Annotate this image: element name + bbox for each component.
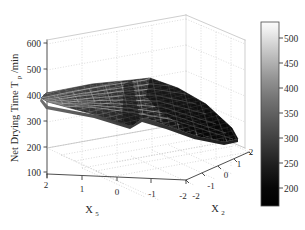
z-tick-label-300: 300 (27, 117, 42, 127)
colorbar[interactable]: 500 450 400 350 300 250 200 (261, 22, 299, 206)
colorbar-tick-marks (279, 38, 283, 188)
colorbar-tick-label-350: 350 (284, 109, 299, 119)
x2-tick-label-1: 1 (237, 159, 242, 169)
x5-tick-label-neg1: -1 (148, 189, 156, 199)
x5-axis-title-symbol: X (85, 204, 93, 215)
colorbar-tick-label-450: 450 (284, 59, 299, 69)
z-axis-title-subscript: p (15, 75, 23, 79)
z-tick-label-500: 500 (27, 65, 42, 75)
z-axis: 600 500 400 300 200 100 Net Drying Time … (9, 39, 47, 178)
x5-tick-label-neg2: -2 (179, 191, 187, 201)
colorbar-tick-label-300: 300 (284, 134, 299, 144)
x2-axis-title-subscript: 2 (221, 209, 225, 217)
svg-text:Net Drying Time: Net Drying Time T p /min (9, 53, 23, 162)
z-axis-title-symbol: T (9, 81, 20, 88)
x2-tick-label-2: 2 (249, 147, 254, 157)
x5-tick-label-1: 1 (80, 184, 85, 194)
z-tick-label-400: 400 (27, 91, 42, 101)
z-axis-title: Net Drying Time T p /min (9, 53, 23, 162)
x2-axis-title: X 2 (211, 203, 225, 217)
z-tick-label-100: 100 (27, 168, 42, 178)
figure-3d-surface-plot: 600 500 400 300 200 100 Net Drying Time … (0, 0, 305, 230)
x5-axis: 2 1 0 -1 -2 X 5 (44, 174, 187, 218)
colorbar-tick-label-500: 500 (284, 34, 299, 44)
x5-tick-label-2: 2 (44, 180, 49, 190)
x2-tick-label-0: 0 (224, 170, 229, 180)
surface-mesh (38, 74, 243, 146)
x2-tick-label-neg2: -2 (192, 191, 200, 201)
colorbar-tick-label-200: 200 (284, 184, 299, 194)
x2-tick-label-neg1: -1 (207, 181, 215, 191)
plot-canvas: 600 500 400 300 200 100 Net Drying Time … (0, 0, 305, 230)
z-axis-title-main: Net Drying Time (9, 90, 20, 162)
z-tick-label-200: 200 (27, 143, 42, 153)
x2-tick-marks (186, 152, 252, 183)
x2-axis-title-symbol: X (211, 203, 219, 214)
z-axis-title-unit: /min (9, 53, 20, 73)
colorbar-tick-label-400: 400 (284, 84, 299, 94)
colorbar-tick-label-250: 250 (284, 159, 299, 169)
x5-axis-title: X 5 (85, 204, 99, 218)
x5-axis-title-subscript: 5 (95, 210, 99, 218)
x5-tick-label-0: 0 (115, 187, 120, 197)
z-tick-label-600: 600 (27, 39, 42, 49)
colorbar-gradient (261, 22, 279, 206)
grid-back-right-wall (186, 19, 245, 167)
